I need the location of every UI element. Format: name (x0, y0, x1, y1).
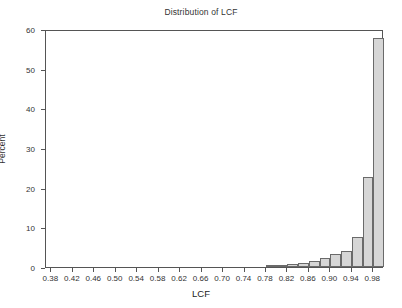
histogram-bar (320, 258, 331, 267)
x-tick-mark (265, 268, 266, 272)
x-tick-label: 0.98 (364, 274, 380, 283)
x-tick-mark (329, 268, 330, 272)
x-tick-label: 0.78 (257, 274, 273, 283)
x-tick-label: 0.50 (107, 274, 123, 283)
x-tick-label: 0.70 (214, 274, 230, 283)
x-tick-label: 0.38 (43, 274, 59, 283)
x-tick-mark (50, 268, 51, 272)
x-tick-label: 0.66 (193, 274, 209, 283)
x-tick-label: 0.82 (279, 274, 295, 283)
x-axis-title: LCF (0, 288, 402, 299)
x-tick-label: 0.90 (322, 274, 338, 283)
bars-layer (46, 31, 382, 267)
x-tick-label: 0.74 (236, 274, 252, 283)
x-tick-label: 0.62 (171, 274, 187, 283)
chart-title: Distribution of LCF (0, 7, 402, 17)
x-tick-mark (115, 268, 116, 272)
x-tick-label: 0.58 (150, 274, 166, 283)
x-tick-mark (308, 268, 309, 272)
x-tick-mark (201, 268, 202, 272)
x-tick-mark (222, 268, 223, 272)
x-tick-mark (244, 268, 245, 272)
x-tick-label: 0.54 (128, 274, 144, 283)
histogram-figure: Distribution of LCF 0102030405060 Percen… (0, 0, 402, 308)
y-tick-label: 30 (26, 145, 35, 154)
x-tick-mark (72, 268, 73, 272)
y-tick-label: 10 (26, 224, 35, 233)
y-tick-label: 60 (26, 26, 35, 35)
y-axis-title: Percent (0, 134, 7, 163)
histogram-bar (277, 265, 288, 267)
histogram-bar (266, 265, 277, 267)
y-tick-label: 40 (26, 105, 35, 114)
histogram-bar (373, 38, 384, 267)
x-tick-mark (93, 268, 94, 272)
x-tick-label: 0.42 (64, 274, 80, 283)
x-tick-label: 0.94 (343, 274, 359, 283)
x-tick-mark (136, 268, 137, 272)
y-tick-label: 20 (26, 184, 35, 193)
x-tick-mark (286, 268, 287, 272)
y-tick-label: 50 (26, 65, 35, 74)
x-tick-mark (351, 268, 352, 272)
histogram-bar (352, 237, 363, 267)
x-tick-mark (158, 268, 159, 272)
histogram-bar (330, 254, 341, 267)
histogram-bar (309, 261, 320, 267)
x-tick-mark (179, 268, 180, 272)
x-tick-label: 0.86 (300, 274, 316, 283)
x-tick-mark (372, 268, 373, 272)
x-tick-label: 0.46 (85, 274, 101, 283)
histogram-bar (287, 264, 298, 267)
plot-area (45, 30, 383, 268)
histogram-bar (363, 177, 374, 267)
histogram-bar (298, 263, 309, 267)
histogram-bar (341, 251, 352, 267)
